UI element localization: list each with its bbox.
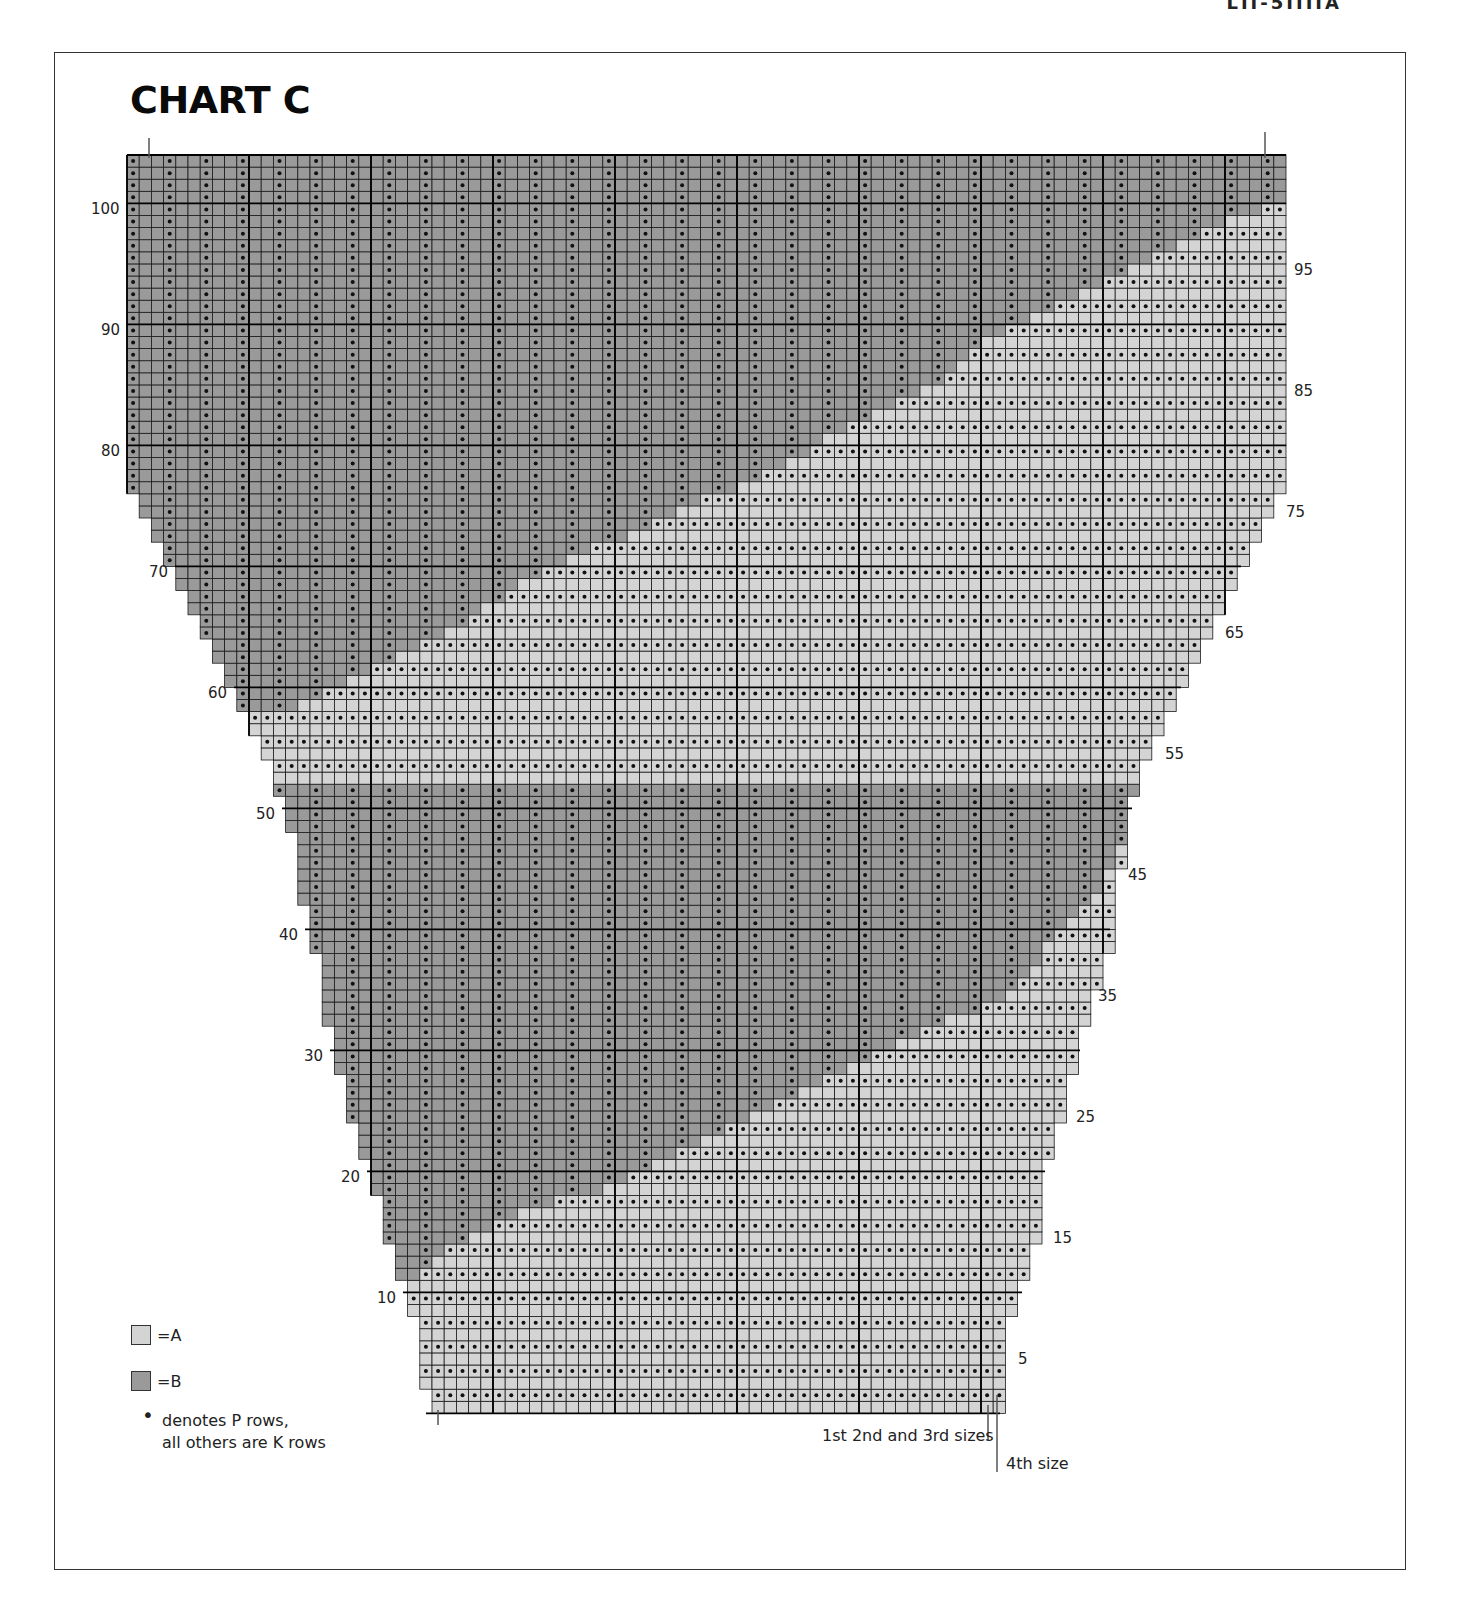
row-label-left-70: 70 xyxy=(149,563,168,581)
row-label-right-55: 55 xyxy=(1165,745,1184,763)
legend-label-a: =A xyxy=(157,1326,181,1345)
row-label-left-50: 50 xyxy=(256,805,275,823)
row-label-left-40: 40 xyxy=(279,926,298,944)
row-label-right-45: 45 xyxy=(1128,866,1147,884)
row-label-left-80: 80 xyxy=(101,442,120,460)
size-label-4: 4th size xyxy=(1006,1454,1069,1473)
row-label-left-30: 30 xyxy=(304,1047,323,1065)
row-label-right-95: 95 xyxy=(1294,261,1313,279)
legend-item-b: =B xyxy=(131,1371,181,1391)
knitting-chart-grid xyxy=(0,0,1457,1624)
purl-dot-icon: • xyxy=(142,1404,154,1426)
row-label-right-15: 15 xyxy=(1053,1229,1072,1247)
row-label-left-90: 90 xyxy=(101,321,120,339)
row-label-right-75: 75 xyxy=(1286,503,1305,521)
legend-note-line2: all others are K rows xyxy=(162,1432,326,1454)
row-label-right-35: 35 xyxy=(1098,987,1117,1005)
legend-swatch-b xyxy=(131,1371,151,1391)
row-label-left-20: 20 xyxy=(341,1168,360,1186)
legend-note-line1: denotes P rows, xyxy=(162,1410,326,1432)
size-label-1-2-3: 1st 2nd and 3rd sizes xyxy=(822,1426,994,1445)
row-label-right-25: 25 xyxy=(1076,1108,1095,1126)
legend-note: • denotes P rows, all others are K rows xyxy=(142,1410,326,1454)
legend-label-b: =B xyxy=(157,1372,181,1391)
legend-item-a: =A xyxy=(131,1325,181,1345)
row-label-right-85: 85 xyxy=(1294,382,1313,400)
legend-swatch-a xyxy=(131,1325,151,1345)
row-label-left-100: 100 xyxy=(91,200,120,218)
row-label-left-60: 60 xyxy=(208,684,227,702)
row-label-right-5: 5 xyxy=(1018,1350,1028,1368)
row-label-left-10: 10 xyxy=(377,1289,396,1307)
row-label-right-65: 65 xyxy=(1225,624,1244,642)
